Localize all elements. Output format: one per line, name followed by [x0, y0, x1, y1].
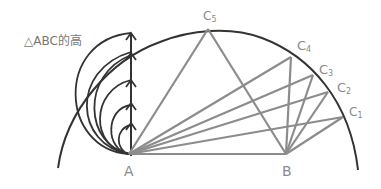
label-C1: C1 [349, 105, 362, 120]
locus-arc [58, 31, 358, 170]
label-B: B [282, 163, 292, 179]
label-A: A [124, 163, 134, 179]
diagram-title: △ABC的高 [24, 33, 82, 48]
label-C3: C3 [319, 62, 333, 78]
label-C5: C5 [203, 9, 216, 24]
triangle-heights-diagram: △ABC的高 A B C5 C4 C3 C2 C1 [0, 0, 381, 189]
height-trace-arcs [76, 33, 131, 154]
label-C4: C4 [297, 38, 311, 54]
label-C2: C2 [337, 80, 351, 96]
